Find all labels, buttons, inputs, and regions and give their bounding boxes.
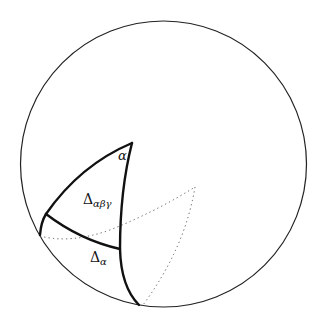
dotted-geodesic-right (143, 187, 195, 305)
dotted-geodesic-left (40, 187, 195, 239)
bold-edge-left-short (40, 214, 46, 235)
label-delta-a-sub: α (100, 256, 107, 267)
label-delta-alpha-beta-gamma: Δ αβγ (83, 191, 112, 209)
label-delta-alpha: Δ α (90, 249, 107, 267)
label-delta-abg-sub: αβγ (93, 198, 112, 209)
label-alpha: α (118, 148, 127, 163)
bold-edge-inner (46, 214, 120, 249)
bold-edge-right (120, 143, 139, 305)
label-delta-a-main: Δ (90, 249, 100, 265)
boundary-circle (21, 21, 307, 307)
label-delta-abg-main: Δ (83, 191, 93, 207)
hyperbolic-disk-diagram: α Δ αβγ Δ α (0, 0, 324, 327)
